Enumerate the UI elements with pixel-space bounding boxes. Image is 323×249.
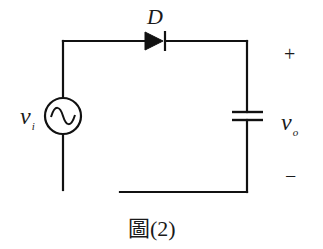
minus-polarity-label: −: [285, 166, 296, 186]
ac-source-icon: [45, 98, 81, 134]
capacitor-icon: [232, 112, 263, 120]
circuit-schematic: [0, 0, 323, 249]
output-label-subscript: o: [293, 126, 299, 138]
output-voltage-label: vo: [281, 110, 298, 134]
source-label-subscript: i: [32, 120, 35, 132]
source-label-symbol: v: [20, 103, 31, 129]
plus-polarity-label: +: [284, 44, 295, 64]
figure-caption: 圖(2): [128, 218, 176, 240]
diode-icon: [145, 31, 165, 51]
source-label: vi: [20, 104, 35, 128]
diode-label: D: [147, 6, 163, 28]
output-label-symbol: v: [281, 109, 292, 135]
